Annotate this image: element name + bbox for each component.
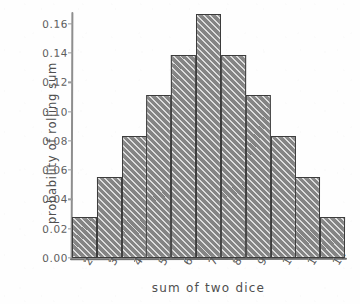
- x-tick-mark: [209, 258, 210, 262]
- bar-2: [72, 217, 97, 258]
- x-tick-mark: [308, 258, 309, 262]
- y-tick-label: 0.16: [8, 17, 68, 30]
- y-tick-label: 0.12: [8, 76, 68, 89]
- bar-9: [246, 95, 271, 258]
- x-tick-mark: [134, 258, 135, 262]
- x-tick-mark: [233, 258, 234, 262]
- x-tick-mark: [159, 258, 160, 262]
- bar-6: [171, 55, 196, 258]
- bar-5: [146, 95, 171, 258]
- y-tick-label: 0.00: [8, 252, 68, 265]
- x-tick-mark: [184, 258, 185, 262]
- bar-7: [196, 14, 221, 258]
- bar-3: [97, 177, 122, 258]
- y-tick-label: 0.02: [8, 222, 68, 235]
- x-axis-title: sum of two dice: [72, 281, 345, 295]
- x-tick-mark: [283, 258, 284, 262]
- bar-8: [221, 55, 246, 258]
- plot-area: [72, 14, 345, 258]
- x-tick-mark: [109, 258, 110, 262]
- y-tick-label: 0.04: [8, 193, 68, 206]
- bar-12: [320, 217, 345, 258]
- x-tick-mark: [84, 258, 85, 262]
- bar-11: [295, 177, 320, 258]
- x-tick-mark: [258, 258, 259, 262]
- y-tick-label: 0.08: [8, 135, 68, 148]
- y-tick-label: 0.10: [8, 105, 68, 118]
- bar-4: [122, 136, 147, 258]
- dice-probability-chart: probability of rolling sum sum of two di…: [0, 0, 360, 304]
- y-tick-label: 0.06: [8, 164, 68, 177]
- bar-10: [270, 136, 295, 258]
- y-tick-label: 0.14: [8, 47, 68, 60]
- x-tick-mark: [333, 258, 334, 262]
